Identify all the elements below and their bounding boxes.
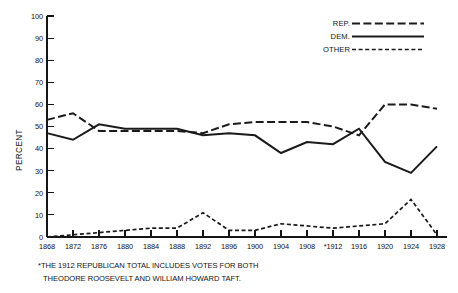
x-tick-label: 1876	[91, 242, 107, 251]
y-tick-label: 50	[35, 122, 43, 131]
y-axis-ticks	[47, 16, 54, 237]
y-tick-label: 40	[35, 144, 43, 153]
x-axis-tick-labels: 1868187218761880188418881892189619001904…	[39, 242, 445, 251]
chart-container: 0102030405060708090100 PERCENT 186818721…	[0, 0, 458, 293]
x-tick-label: 1884	[143, 242, 159, 251]
y-tick-label: 70	[35, 78, 43, 87]
y-tick-label: 100	[31, 12, 43, 21]
footnote-line-2: THEODORE ROOSEVELT AND WILLIAM HOWARD TA…	[43, 274, 241, 283]
y-tick-label: 10	[35, 211, 43, 220]
x-tick-label: 1904	[273, 242, 289, 251]
x-tick-label: 1928	[429, 242, 445, 251]
series-line-other	[47, 199, 437, 237]
x-tick-label: 1888	[169, 242, 185, 251]
y-tick-label: 80	[35, 56, 43, 65]
legend-label-other: OTHER	[323, 45, 350, 54]
legend-label-rep: REP.	[333, 19, 350, 28]
x-tick-label: 1880	[117, 242, 133, 251]
y-axis-title: PERCENT	[15, 129, 24, 171]
x-tick-label: 1896	[221, 242, 237, 251]
election-percent-line-chart: 0102030405060708090100 PERCENT 186818721…	[0, 0, 458, 293]
x-tick-label: 1920	[377, 242, 393, 251]
y-tick-label: 90	[35, 34, 43, 43]
x-tick-label: 1872	[65, 242, 81, 251]
footnote: *THE 1912 REPUBLICAN TOTAL INCLUDES VOTE…	[38, 261, 258, 283]
legend: REP. DEM. OTHER	[323, 19, 424, 54]
x-tick-label: 1868	[39, 242, 55, 251]
x-tick-label: 1900	[247, 242, 263, 251]
y-tick-label: 0	[39, 233, 43, 242]
x-tick-label: 1924	[403, 242, 419, 251]
y-tick-label: 30	[35, 167, 43, 176]
x-tick-label: *1912	[324, 242, 343, 251]
x-tick-label: 1892	[195, 242, 211, 251]
x-tick-label: 1908	[299, 242, 315, 251]
y-tick-label: 60	[35, 100, 43, 109]
y-axis-tick-labels: 0102030405060708090100	[31, 12, 43, 242]
y-axis-group: 0102030405060708090100 PERCENT	[15, 12, 54, 242]
legend-label-dem: DEM.	[331, 32, 350, 41]
series-line-rep	[47, 104, 437, 135]
y-tick-label: 20	[35, 189, 43, 198]
series-group	[47, 104, 437, 237]
footnote-line-1: *THE 1912 REPUBLICAN TOTAL INCLUDES VOTE…	[38, 261, 258, 270]
x-tick-label: 1916	[351, 242, 367, 251]
